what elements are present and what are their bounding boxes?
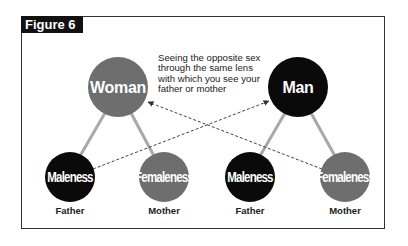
left-maleness-label: Maleness [47, 170, 92, 185]
left-mother-role: Mother [148, 205, 180, 216]
right-femaleness-label: Femaleness [316, 170, 374, 185]
man-label: Man [282, 79, 313, 97]
edge-woman-father [80, 113, 105, 156]
right-father-role: Father [235, 205, 264, 216]
right-maleness-label: Maleness [227, 170, 272, 185]
edge-woman-mother [131, 113, 154, 156]
left-father-role: Father [55, 205, 84, 216]
figure-caption: Seeing the opposite sex through the same… [158, 53, 270, 95]
left-femaleness-label: Femaleness [135, 170, 193, 185]
right-mother-role: Mother [329, 205, 361, 216]
woman-label: Woman [90, 79, 146, 97]
edge-man-mother [311, 113, 335, 156]
edge-man-father [260, 113, 285, 156]
figure-title: Figure 6 [21, 16, 83, 33]
